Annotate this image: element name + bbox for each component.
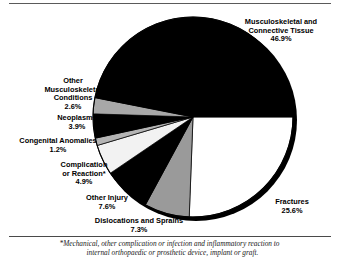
- slice-label-text-line1: Complication: [61, 160, 108, 169]
- slice-label-congenital-anomalies: Congenital Anomalies 1.2%: [6, 137, 110, 154]
- slice-label-text-line3: Conditions: [54, 93, 93, 102]
- slice-value-text: 7.3%: [76, 226, 202, 235]
- footnote-line-1: *Mechanical, other complication or infec…: [0, 239, 339, 248]
- slice-value-text: 25.6%: [258, 207, 326, 216]
- footnote-divider: [9, 236, 331, 237]
- slice-label-musculoskeletal-connective-tissue: Musculoskeletal and Connective Tissue 46…: [229, 18, 333, 44]
- slice-label-other-musculoskeletal-conditions: Other Musculoskeletal Conditions 2.6%: [36, 77, 110, 112]
- slice-label-text-line2: Connective Tissue: [248, 26, 313, 35]
- slice-label-text-line2: Musculoskeletal: [44, 85, 101, 94]
- slice-label-dislocations-and-sprains: Dislocations and Sprains 7.3%: [76, 217, 202, 234]
- top-divider: [9, 3, 331, 4]
- slice-label-text: Fractures: [275, 197, 309, 206]
- pie-chart: Musculoskeletal and Connective Tissue 46…: [0, 6, 339, 236]
- slice-label-text: Dislocations and Sprains: [95, 216, 183, 225]
- slice-label-text: Neoplasms: [57, 113, 96, 122]
- slice-label-text-line1: Other: [63, 76, 83, 85]
- slice-value-text: 46.9%: [229, 35, 333, 44]
- figure-page: Musculoskeletal and Connective Tissue 46…: [0, 0, 339, 267]
- slice-label-text: Other Injury: [86, 193, 128, 202]
- slice-label-other-injury: Other Injury 7.6%: [74, 194, 140, 211]
- slice-value-text: 1.2%: [6, 146, 110, 155]
- slice-label-text-line2: or Reaction*: [62, 169, 106, 178]
- slice-value-text: 7.6%: [74, 203, 140, 212]
- slice-label-text: Congenital Anomalies: [19, 136, 96, 145]
- footnote-line-2: internal orthopaedic or prosthetic devic…: [0, 248, 339, 257]
- slice-label-text-line1: Musculoskeletal and: [245, 17, 317, 26]
- slice-label-fractures: Fractures 25.6%: [258, 198, 326, 215]
- slice-label-neoplasms: Neoplasms 3.9%: [44, 114, 110, 131]
- slice-label-complication-or-reaction: Complication or Reaction* 4.9%: [44, 161, 124, 187]
- slice-value-text: 4.9%: [44, 178, 124, 187]
- slice-value-text: 3.9%: [44, 123, 110, 132]
- slice-value-text: 2.6%: [36, 103, 110, 112]
- footnote: *Mechanical, other complication or infec…: [0, 239, 339, 257]
